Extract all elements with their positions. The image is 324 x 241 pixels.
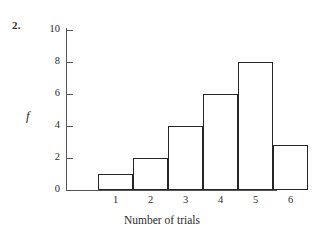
x-tick-label: 3 [176,194,196,205]
x-tick-label: 4 [211,194,231,205]
histogram-bar [168,126,203,190]
histogram-figure: 2. f 0246810 123456 Number of trials [0,0,324,241]
x-tick-label: 5 [246,194,266,205]
histogram-bar [273,145,308,190]
y-tick-label: 4 [38,119,60,130]
histogram-bar [238,62,273,190]
x-tick-label: 2 [141,194,161,205]
histogram-bar [203,94,238,190]
y-tick-label: 10 [38,23,60,34]
problem-number-label: 2. [12,19,21,31]
x-axis-line [66,190,277,191]
y-tick-mark [67,190,73,191]
y-axis-line [66,28,67,191]
x-tick-label: 1 [106,194,126,205]
x-axis-title: Number of trials [0,214,324,226]
y-tick-mark [67,94,73,95]
y-tick-mark [67,126,73,127]
y-tick-label: 8 [38,55,60,66]
histogram-bar [98,174,133,190]
y-tick-mark [67,30,73,31]
y-tick-label: 6 [38,87,60,98]
y-tick-mark [67,158,73,159]
x-tick-label: 6 [281,194,301,205]
y-tick-label: 2 [38,151,60,162]
y-tick-label: 0 [38,183,60,194]
y-axis-label: f [26,108,30,124]
y-tick-mark [67,62,73,63]
histogram-bar [133,158,168,190]
